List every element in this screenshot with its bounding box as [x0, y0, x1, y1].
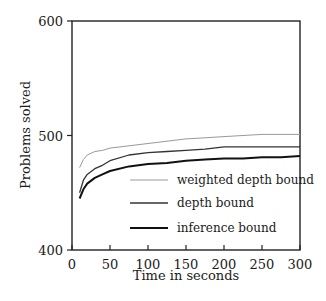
legend-label: inference bound [177, 221, 277, 235]
y-tick-label: 400 [38, 243, 63, 258]
series-weighted-depth-bound [80, 134, 300, 167]
plot-area [72, 21, 300, 250]
y-tick-label: 600 [38, 14, 63, 29]
x-tick-label: 250 [250, 257, 275, 272]
x-tick-label: 50 [102, 257, 119, 272]
legend: weighted depth bounddepth boundinference… [130, 173, 314, 235]
line-chart: 050100150200250300 400500600 Time in sec… [0, 0, 326, 301]
legend-label: depth bound [177, 196, 254, 210]
x-tick-label: 300 [288, 257, 313, 272]
y-axis-ticks: 400500600 [38, 14, 72, 258]
plot-frame [72, 21, 300, 250]
y-tick-label: 500 [38, 129, 63, 144]
legend-label: weighted depth bound [177, 173, 314, 187]
x-tick-label: 0 [68, 257, 76, 272]
y-axis-title: Problems solved [18, 81, 33, 189]
x-axis-title: Time in seconds [133, 268, 239, 283]
series-layer [80, 134, 300, 198]
